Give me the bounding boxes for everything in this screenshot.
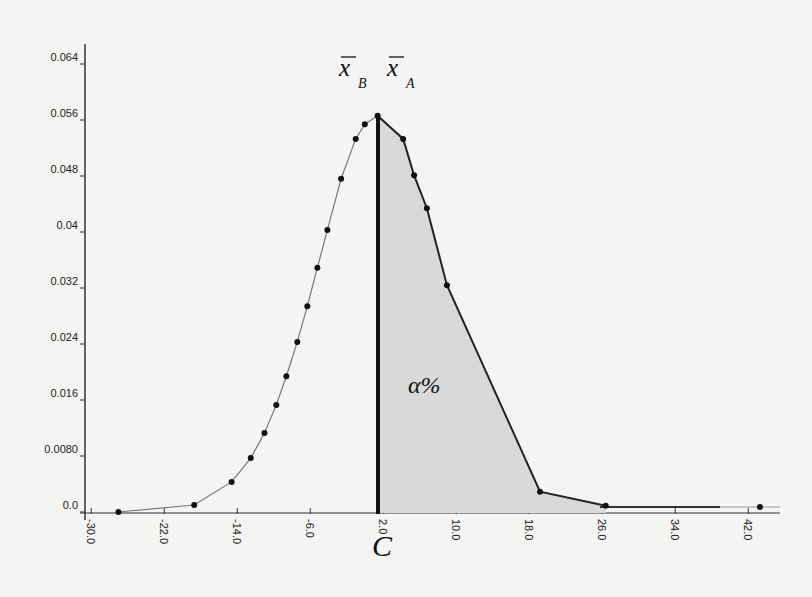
y-tick-label: 0.048 [50, 163, 78, 175]
data-point [324, 227, 330, 233]
x-tick-label: -30.0 [85, 519, 97, 544]
data-point [537, 489, 543, 495]
y-tick-label: 0.016 [50, 387, 78, 399]
y-tick-label: 0.0 [63, 499, 78, 511]
x-tick-label: 34.0 [669, 519, 681, 540]
data-point [444, 282, 450, 288]
x-tick-label: -14.0 [231, 519, 243, 544]
curve-left [118, 116, 377, 512]
svg-text:x: x [338, 54, 350, 81]
y-ticks: 0.00.00800.0160.0240.0320.040.0480.0560.… [44, 51, 85, 512]
data-point [338, 176, 344, 182]
x-tick-label: 10.0 [450, 519, 462, 540]
data-point [283, 373, 289, 379]
chart: 0.00.00800.0160.0240.0320.040.0480.0560.… [0, 0, 812, 597]
mean-a-label: x A [386, 54, 415, 91]
data-point [362, 121, 368, 127]
x-tick-label: -6.0 [304, 519, 316, 538]
data-point [248, 455, 254, 461]
mean-b-label: x B [338, 54, 367, 91]
critical-value-label: C [372, 529, 393, 562]
data-point [273, 402, 279, 408]
data-point [261, 430, 267, 436]
data-point [603, 503, 609, 509]
svg-text:A: A [405, 76, 415, 91]
x-tick-label: 18.0 [523, 519, 535, 540]
alpha-label: α% [408, 372, 441, 398]
svg-text:B: B [358, 76, 367, 91]
y-tick-label: 0.0080 [44, 443, 78, 455]
x-tick-label: -22.0 [158, 519, 170, 544]
data-point [411, 172, 417, 178]
y-tick-label: 0.04 [57, 219, 78, 231]
data-point [294, 339, 300, 345]
data-point [757, 504, 763, 510]
data-point [400, 136, 406, 142]
data-point [424, 205, 430, 211]
y-tick-label: 0.024 [50, 331, 78, 343]
y-tick-label: 0.056 [50, 107, 78, 119]
x-tick-label: 42.0 [742, 519, 754, 540]
data-point [115, 509, 121, 515]
data-point [229, 479, 235, 485]
data-point [353, 136, 359, 142]
y-tick-label: 0.032 [50, 275, 78, 287]
y-tick-label: 0.064 [50, 51, 78, 63]
svg-text:x: x [386, 54, 398, 81]
data-point [191, 502, 197, 508]
data-point [314, 265, 320, 271]
data-point [304, 303, 310, 309]
x-tick-label: 26.0 [596, 519, 608, 540]
